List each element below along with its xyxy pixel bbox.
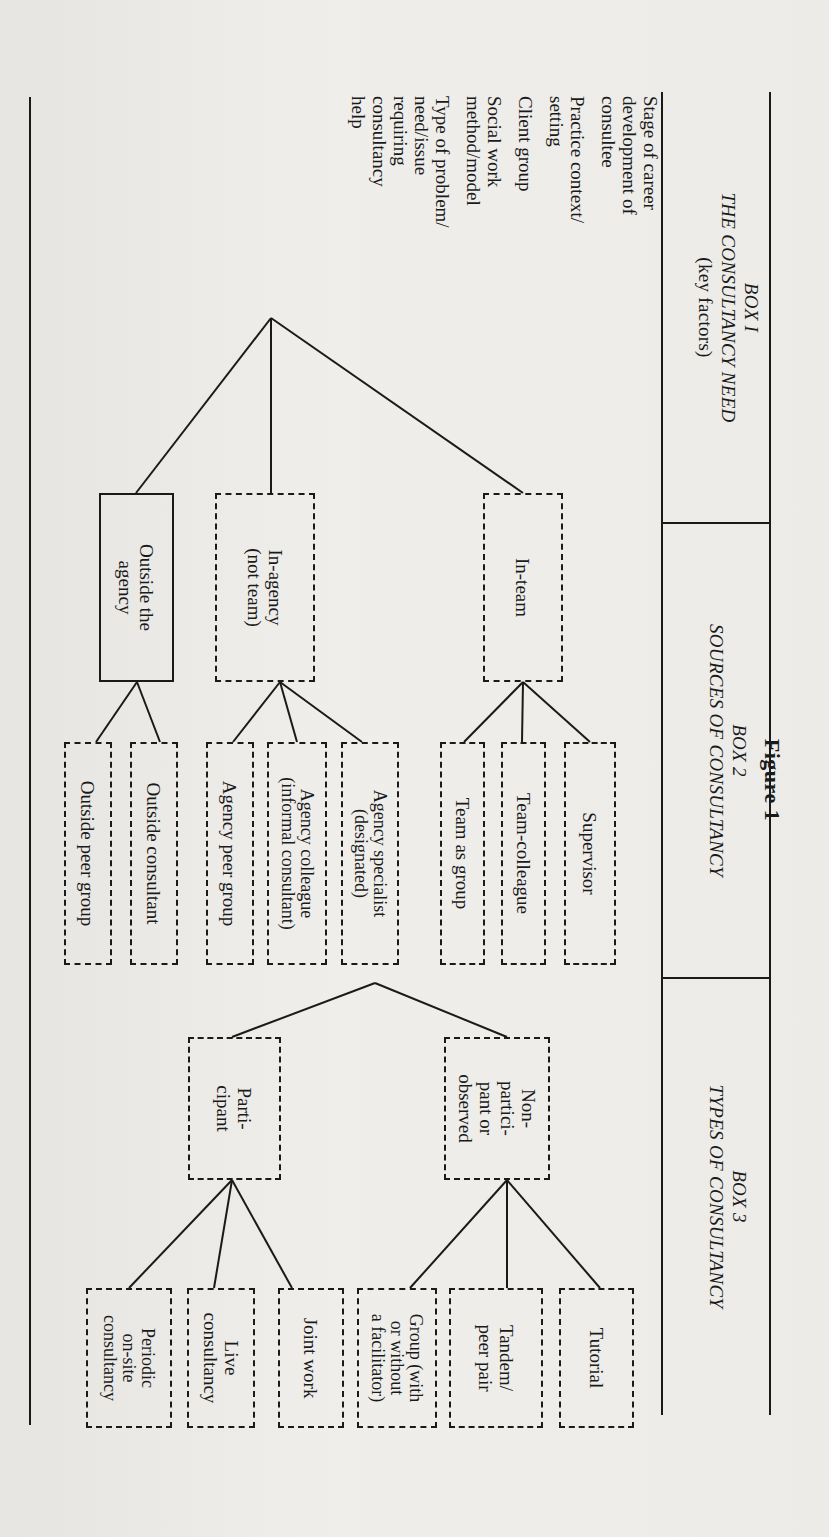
source-team-colleague: Team-colleague <box>501 742 546 965</box>
type-non-participant: Non- partici- pant or observed <box>444 1037 550 1180</box>
type-tandem-peer-pair: Tandem/ peer pair <box>449 1288 543 1428</box>
box2-title: SOURCES OF CONSULTANCY <box>705 523 728 978</box>
source-agency-specialist: Agency specialist (designated) <box>341 742 399 965</box>
box1-factor-list: Stage of career development of consultee… <box>338 96 661 286</box>
connector-to-non-participant <box>375 983 507 1037</box>
box1-header: BOX I THE CONSULTANCY NEED (key factors) <box>694 92 763 523</box>
box1-label: BOX I <box>740 92 763 523</box>
source-in-agency: In-agency (not team) <box>215 493 315 682</box>
source-in-team: In-team <box>483 493 563 682</box>
type-participant: Parti- cipant <box>188 1037 281 1180</box>
type-periodic-on-site: Periodic on-site consultancy <box>86 1288 172 1428</box>
box2-label: BOX 2 <box>728 523 751 978</box>
source-supervisor: Supervisor <box>564 742 616 965</box>
connector-need-to-in-team <box>271 318 523 493</box>
factor-career-stage: Stage of career development of consultee <box>598 96 661 286</box>
source-agency-colleague: Agency colleague (informal consultant) <box>267 742 327 965</box>
box3-title: TYPES OF CONSULTANCY <box>705 978 728 1415</box>
factor-social-work-method: Social work method/model <box>463 96 505 286</box>
factor-problem-type: Type of problem/ need/issue requiring co… <box>348 96 453 286</box>
box3-header: BOX 3 TYPES OF CONSULTANCY <box>705 978 751 1415</box>
box1-subtitle: (key factors) <box>694 92 717 523</box>
figure-title: Figure 1 <box>759 680 785 880</box>
scanned-page: Figure 1 BOX I THE CONSULTANCY NEED (key… <box>0 0 829 1537</box>
connector-need-to-outside <box>136 318 271 493</box>
source-outside-peer-group: Outside peer group <box>64 742 112 965</box>
type-joint-work: Joint work <box>278 1288 344 1428</box>
source-team-as-group: Team as group <box>440 742 485 965</box>
type-group: Group (with or without a facilitator) <box>357 1288 437 1428</box>
box2-header: BOX 2 SOURCES OF CONSULTANCY <box>705 523 751 978</box>
type-tutorial: Tutorial <box>559 1288 634 1428</box>
source-agency-peer-group: Agency peer group <box>206 742 254 965</box>
source-outside-agency: Outside the agency <box>99 493 174 682</box>
connector-to-participant <box>232 983 375 1037</box>
factor-client-group: Client group <box>515 96 536 286</box>
factor-practice-context: Practice context/ setting <box>546 96 588 286</box>
box3-label: BOX 3 <box>728 978 751 1415</box>
rotated-figure: Figure 1 BOX I THE CONSULTANCY NEED (key… <box>0 0 829 1537</box>
source-outside-consultant: Outside consultant <box>130 742 178 965</box>
box1-title: THE CONSULTANCY NEED <box>717 92 740 523</box>
type-live-consultancy: Live consultancy <box>187 1288 255 1428</box>
